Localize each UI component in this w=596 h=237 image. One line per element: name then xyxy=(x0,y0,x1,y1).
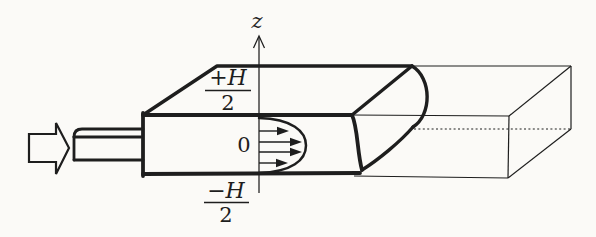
velocity-arrowhead-icon xyxy=(290,148,302,156)
outer-die-bottom-front-edge xyxy=(354,176,508,178)
die-front-bottom-edge xyxy=(143,173,360,174)
lower-bound-numerator: −H xyxy=(207,178,245,203)
velocity-profile xyxy=(259,118,306,173)
upper-bound-numerator: +H xyxy=(209,65,247,90)
diagram-canvas: z +H 2 0 −H 2 xyxy=(0,0,596,237)
z-axis-label: z xyxy=(250,9,263,33)
outer-die-bottom-right-edge xyxy=(508,129,571,178)
velocity-arrow-3 xyxy=(259,148,302,156)
outer-die-block xyxy=(352,66,571,178)
inlet-tube xyxy=(74,129,143,160)
lower-bound-denominator: 2 xyxy=(219,203,232,227)
velocity-arrow-2 xyxy=(259,138,302,146)
velocity-arrowhead-icon xyxy=(276,159,288,167)
velocity-arrowhead-icon xyxy=(290,138,302,146)
outer-die-top-front-edge xyxy=(352,115,509,116)
lower-bound-label: −H 2 xyxy=(204,178,249,227)
origin-label: 0 xyxy=(237,133,250,157)
velocity-arrow-1 xyxy=(259,127,289,135)
upper-bound-denominator: 2 xyxy=(221,91,234,115)
outer-die-top-right-edge xyxy=(509,66,571,116)
die-nose-front-curve xyxy=(352,115,362,170)
outer-die-front-right-edge xyxy=(508,116,509,178)
slit-die-flow-diagram: z +H 2 0 −H 2 xyxy=(0,0,596,237)
flow-direction-arrow xyxy=(29,123,69,174)
velocity-arrow-4 xyxy=(259,159,288,167)
upper-bound-label: +H 2 xyxy=(205,65,251,115)
die-nose-lower-edge xyxy=(362,127,413,170)
velocity-arrowhead-icon xyxy=(277,127,289,135)
die-nose-top-curve xyxy=(412,66,427,127)
die-nose-upper-edge xyxy=(352,66,412,115)
die-top-face-edges xyxy=(143,66,412,115)
